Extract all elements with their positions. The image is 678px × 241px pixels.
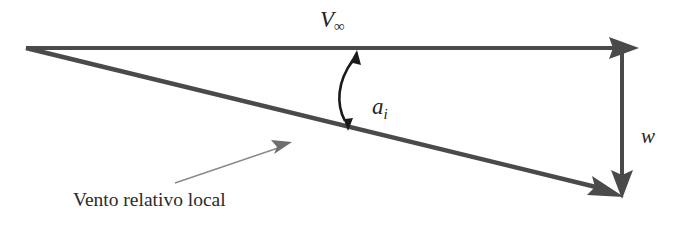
- relative-wind-pointer-arrowhead: [271, 140, 292, 154]
- induced-angle-subscript: i: [384, 106, 388, 122]
- velocity-triangle-diagram: V∞ ai w Vento relativo local: [0, 0, 678, 241]
- induced-angle-arc-curve: [339, 60, 353, 121]
- induced-angle-symbol: a: [372, 94, 384, 119]
- induced-angle-arc: [339, 50, 361, 131]
- relative-wind-pointer-shaft: [175, 148, 278, 183]
- freestream-velocity-vector: [26, 37, 639, 59]
- relative-wind-caption: Vento relativo local: [73, 190, 226, 210]
- local-relative-wind-shaft: [26, 48, 600, 188]
- induced-angle-arc-arrowhead-top: [347, 50, 361, 68]
- induced-velocity-label: w: [641, 126, 655, 147]
- freestream-velocity-subscript: ∞: [334, 18, 345, 34]
- induced-angle-label: ai: [372, 95, 388, 122]
- local-relative-wind-vector: [26, 48, 624, 197]
- freestream-velocity-label: V∞: [320, 8, 345, 34]
- induced-velocity-vector: [611, 47, 633, 199]
- freestream-velocity-symbol: V: [320, 7, 334, 32]
- relative-wind-pointer: [175, 140, 292, 183]
